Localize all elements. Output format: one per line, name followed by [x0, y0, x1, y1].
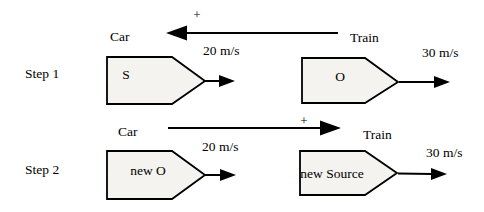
step1-relative-sign: +	[193, 7, 200, 22]
step2-train-tag: new Source	[300, 166, 363, 181]
step2-train-speed: 30 m/s	[426, 145, 462, 160]
step2-car-speed: 20 m/s	[202, 139, 238, 154]
step1-relative-arrow-icon	[166, 26, 338, 41]
step2-car-title: Car	[118, 124, 138, 139]
step2-relative-sign: +	[300, 113, 307, 128]
step1-train-title: Train	[350, 30, 379, 45]
step2-train-title: Train	[363, 127, 392, 142]
step1-train-shape	[302, 58, 398, 103]
doppler-steps-diagram: + Car Train 20 m/s 30 m/s Step 1 S O + C…	[0, 0, 484, 212]
step1-train-velocity-arrow-icon	[399, 76, 450, 88]
diagram-svg: + Car Train 20 m/s 30 m/s Step 1 S O + C…	[0, 0, 484, 212]
step1-train-tag: O	[335, 69, 345, 84]
step2-car-tag: new O	[130, 163, 166, 178]
step2-label: Step 2	[25, 162, 59, 177]
step1-car-title: Car	[110, 29, 130, 44]
step1-label: Step 1	[25, 66, 59, 81]
step2-car-velocity-arrow-icon	[204, 169, 236, 181]
step1-car-tag: S	[122, 67, 130, 82]
step1-train-speed: 30 m/s	[422, 45, 458, 60]
step2-train-velocity-arrow-icon	[398, 168, 447, 180]
step2-relative-arrow-icon	[168, 121, 341, 136]
step1-car-velocity-arrow-icon	[204, 75, 235, 87]
step1-car-speed: 20 m/s	[203, 43, 239, 58]
